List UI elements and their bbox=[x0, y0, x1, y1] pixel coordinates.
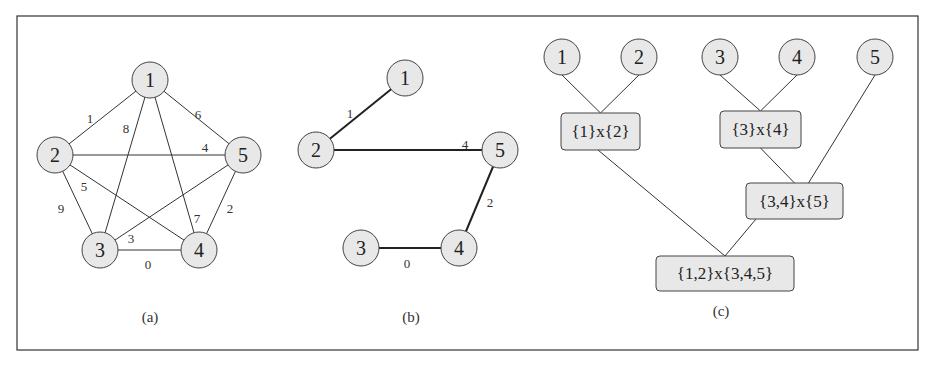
a-edge-weight-5-4: 2 bbox=[227, 201, 234, 216]
a-edge-weight-2-3: 9 bbox=[58, 201, 65, 216]
a-edge-weight-1-2: 1 bbox=[87, 111, 94, 126]
b-edge-weight-5-4: 2 bbox=[487, 195, 494, 210]
panel-c-join-tree: 12345{1}x{2}{3}x{4}{3,4}x{5}{1,2}x{3,4,5… bbox=[544, 39, 893, 291]
b-node-label-3: 3 bbox=[356, 237, 366, 259]
c-link-j345-jall bbox=[725, 219, 756, 256]
c-leaf-label-2: 2 bbox=[634, 46, 644, 68]
a-edge-weight-2-4: 5 bbox=[81, 179, 88, 194]
panel-a-complete-graph: 187645930212345 bbox=[37, 62, 261, 272]
c-link-5-j345 bbox=[809, 75, 876, 183]
a-edge-1-4 bbox=[150, 80, 199, 250]
c-link-4-j34 bbox=[761, 75, 798, 111]
c-join-label-j34: {3}x{4} bbox=[731, 120, 789, 139]
b-node-label-4: 4 bbox=[454, 237, 464, 259]
c-join-label-j12: {1}x{2} bbox=[571, 122, 629, 141]
a-edge-weight-3-5: 3 bbox=[128, 231, 135, 246]
b-edge-weight-3-4: 0 bbox=[404, 256, 411, 271]
a-node-label-2: 2 bbox=[50, 144, 60, 166]
a-edge-weight-2-5: 4 bbox=[202, 140, 209, 155]
a-node-label-5: 5 bbox=[238, 144, 248, 166]
c-link-3-j34 bbox=[720, 75, 761, 111]
panel-b-caption: (b) bbox=[402, 309, 420, 326]
c-leaf-label-3: 3 bbox=[715, 46, 725, 68]
a-edge-weight-1-5: 6 bbox=[195, 107, 202, 122]
b-node-label-5: 5 bbox=[495, 139, 505, 161]
a-node-label-3: 3 bbox=[95, 239, 105, 261]
c-join-label-j345: {3,4}x{5} bbox=[759, 192, 830, 211]
c-join-label-jall: {1,2}x{3,4,5} bbox=[677, 264, 773, 283]
c-leaf-label-1: 1 bbox=[557, 46, 567, 68]
panel-a-caption: (a) bbox=[142, 309, 159, 326]
panel-c-caption: (c) bbox=[713, 303, 730, 320]
c-link-j12-jall bbox=[598, 150, 725, 256]
a-node-label-1: 1 bbox=[145, 69, 155, 91]
panel-b-spanning-tree: 142012345 bbox=[298, 60, 518, 271]
c-link-2-j12 bbox=[601, 75, 640, 113]
figure: 187645930212345 (a) 142012345 (b) 12345{… bbox=[0, 0, 935, 365]
b-edge-weight-2-5: 4 bbox=[462, 137, 469, 152]
a-edge-weight-1-3: 8 bbox=[123, 121, 130, 136]
c-link-1-j12 bbox=[562, 75, 601, 113]
c-link-j34-j345 bbox=[761, 148, 795, 183]
a-node-label-4: 4 bbox=[194, 239, 204, 261]
c-leaf-label-4: 4 bbox=[792, 46, 802, 68]
a-edge-1-3 bbox=[100, 80, 150, 250]
b-node-label-2: 2 bbox=[311, 139, 321, 161]
a-edge-weight-3-4: 0 bbox=[145, 257, 152, 272]
b-edge-weight-1-2: 1 bbox=[347, 106, 354, 121]
b-node-label-1: 1 bbox=[400, 67, 410, 89]
a-edge-weight-1-4: 7 bbox=[194, 211, 201, 226]
c-leaf-label-5: 5 bbox=[870, 46, 880, 68]
